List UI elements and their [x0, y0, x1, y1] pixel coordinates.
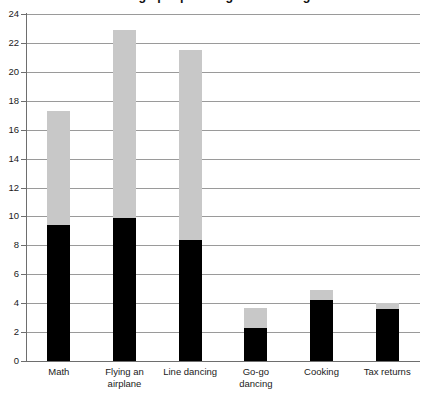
x-axis-label-line: Tax returns — [350, 366, 422, 378]
y-axis-tick — [21, 188, 26, 189]
y-axis-tick-label: 10 — [0, 211, 19, 221]
y-axis-tick — [21, 332, 26, 333]
bar-segment-lower — [47, 225, 70, 361]
bar-segment-upper — [244, 308, 267, 328]
x-axis-label-line: airplane — [88, 378, 162, 390]
bar-math — [47, 111, 70, 361]
y-axis-tick — [21, 72, 26, 73]
y-axis-tick-label: 12 — [0, 183, 19, 193]
y-axis-tick-label: 4 — [0, 298, 19, 308]
y-axis-tick-label: 24 — [0, 9, 19, 19]
bar-line-dancing — [179, 50, 202, 361]
y-axis-tick — [21, 101, 26, 102]
y-axis-tick — [21, 43, 26, 44]
y-axis-tick — [21, 274, 26, 275]
bar-segment-upper — [113, 30, 136, 218]
bar-segment-upper — [310, 290, 333, 300]
y-axis-tick-label: 6 — [0, 269, 19, 279]
bar-segment-lower — [113, 218, 136, 361]
x-axis-label: Line dancing — [153, 366, 227, 378]
bar-segment-lower — [244, 328, 267, 361]
x-axis-label: Flying anairplane — [88, 366, 162, 389]
x-axis-label-line: dancing — [219, 378, 293, 390]
chart-title: Things people are good at doing — [0, 0, 422, 3]
x-axis-label: Go-godancing — [219, 366, 293, 389]
bar-segment-lower — [179, 240, 202, 361]
bar-tax-returns — [376, 303, 399, 361]
y-axis-tick — [21, 303, 26, 304]
bar-segment-lower — [310, 300, 333, 361]
x-axis-label: Cooking — [285, 366, 359, 378]
y-axis-tick — [21, 14, 26, 15]
bar-segment-lower — [376, 309, 399, 361]
x-axis-line — [26, 361, 420, 362]
y-axis-tick — [21, 130, 26, 131]
x-axis-label: Math — [22, 366, 96, 378]
bar-segment-upper — [47, 111, 70, 225]
y-axis-tick-label: 20 — [0, 67, 19, 77]
y-axis-tick — [21, 245, 26, 246]
y-axis-tick-label: 22 — [0, 38, 19, 48]
y-axis-tick-labels: 024681012141618202224 — [0, 0, 19, 400]
y-axis-tick-label: 16 — [0, 125, 19, 135]
x-axis-label-line: Cooking — [285, 366, 359, 378]
x-axis-label-line: Math — [22, 366, 96, 378]
y-axis-tick-label: 8 — [0, 240, 19, 250]
x-axis-label: Tax returns — [350, 366, 422, 378]
bar-flying-an-airplane — [113, 30, 136, 361]
bars-layer — [26, 14, 420, 361]
bar-cooking — [310, 290, 333, 361]
bar-go-go-dancing — [244, 308, 267, 361]
y-axis-tick — [21, 361, 26, 362]
y-axis-tick-label: 14 — [0, 154, 19, 164]
y-axis-tick-label: 0 — [0, 356, 19, 366]
y-axis-tick-label: 18 — [0, 96, 19, 106]
bar-segment-upper — [179, 50, 202, 239]
x-axis-label-line: Line dancing — [153, 366, 227, 378]
y-axis-tick — [21, 216, 26, 217]
y-axis-tick — [21, 159, 26, 160]
chart-container: Things people are good at doing 02468101… — [0, 0, 422, 400]
x-axis-label-line: Flying an — [88, 366, 162, 378]
y-axis-tick-label: 2 — [0, 327, 19, 337]
x-axis-category-labels: MathFlying anairplaneLine dancingGo-goda… — [26, 366, 420, 400]
bar-segment-upper — [376, 303, 399, 309]
x-axis-label-line: Go-go — [219, 366, 293, 378]
